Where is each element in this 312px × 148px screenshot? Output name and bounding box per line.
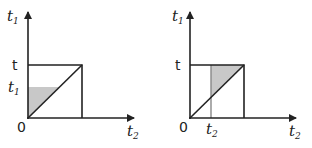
- origin-label: 0: [17, 119, 26, 135]
- diagram-right: t1 t 0 t2 t2: [172, 7, 301, 141]
- origin-label: 0: [179, 119, 188, 135]
- svg-text:t2: t2: [127, 122, 139, 141]
- top-label: t: [12, 57, 18, 73]
- svg-text:t2: t2: [289, 122, 301, 141]
- svg-text:t1: t1: [7, 7, 19, 26]
- svg-text:t1: t1: [8, 78, 20, 97]
- svg-text:t2: t2: [206, 120, 218, 139]
- top-label: t: [175, 57, 181, 73]
- integration-region-diagrams: t1 t t1 0 t2 t1 t 0 t2 t2: [0, 0, 312, 148]
- svg-text:t1: t1: [172, 7, 184, 26]
- diagram-left: t1 t t1 0 t2: [7, 7, 139, 141]
